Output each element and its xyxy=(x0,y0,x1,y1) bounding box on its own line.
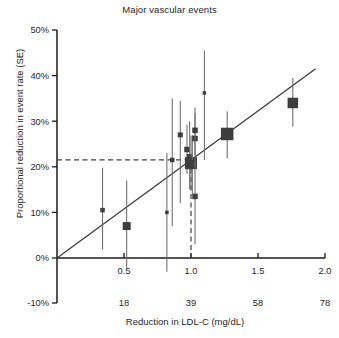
y-tick-label-0: -10% xyxy=(27,298,49,308)
data-point-marker xyxy=(192,194,198,200)
y-tick-label-1: 0% xyxy=(36,253,49,263)
y-tick-label-5: 40% xyxy=(30,71,49,81)
x-tick-label-mgdl-2: 58 xyxy=(253,298,263,308)
x-tick-label-mmol-0: 0.5 xyxy=(118,266,131,276)
y-tick-label-2: 10% xyxy=(30,208,49,218)
data-point-marker xyxy=(221,128,234,141)
data-point-marker xyxy=(170,158,175,163)
data-point-marker xyxy=(100,208,105,213)
data-point-marker xyxy=(192,128,198,134)
chart-figure: Major vascular events Proportional reduc… xyxy=(0,0,339,338)
x-axis: 0.5181.0391.5582.078 xyxy=(57,253,331,308)
y-axis: -10%0%10%20%30%40%50% xyxy=(27,25,57,308)
y-tick-label-4: 30% xyxy=(30,117,49,127)
data-point-marker xyxy=(123,222,131,230)
plot-area: -10%0%10%20%30%40%50% 0.5181.0391.5582.0… xyxy=(0,0,339,338)
data-point-marker xyxy=(184,147,190,153)
data-point-marker xyxy=(178,132,183,137)
data-point-marker xyxy=(203,91,207,95)
x-tick-label-mgdl-3: 78 xyxy=(320,298,330,308)
y-tick-label-3: 20% xyxy=(30,162,49,172)
x-tick-label-mgdl-1: 39 xyxy=(186,298,196,308)
data-points xyxy=(100,51,298,272)
x-tick-label-mmol-3: 2.0 xyxy=(319,266,332,276)
y-tick-label-6: 50% xyxy=(30,25,49,35)
x-tick-label-mmol-2: 1.5 xyxy=(252,266,265,276)
x-tick-label-mmol-1: 1.0 xyxy=(185,266,198,276)
x-tick-label-mgdl-0: 18 xyxy=(119,298,129,308)
data-point-marker xyxy=(288,98,299,109)
data-point-marker xyxy=(165,211,169,215)
